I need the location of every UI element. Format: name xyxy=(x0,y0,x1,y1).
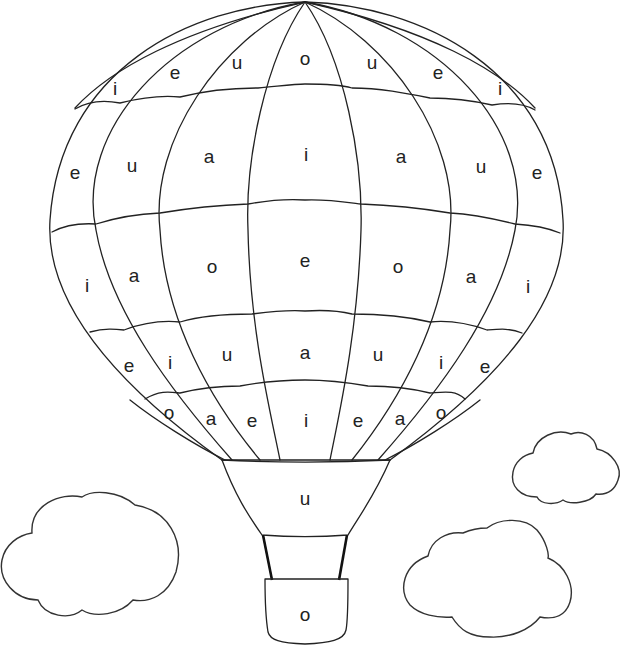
cloud-left xyxy=(1,492,178,615)
balloon-letter: i xyxy=(168,353,172,372)
balloon-drawing xyxy=(0,0,639,665)
balloon-letter: a xyxy=(204,147,215,166)
balloon-letter: a xyxy=(466,267,477,286)
balloon-letter: o xyxy=(207,257,218,276)
balloon-letter: u xyxy=(476,157,487,176)
balloon-letter: e xyxy=(247,411,258,430)
balloon-letter: u xyxy=(373,345,384,364)
balloon-letter: i xyxy=(498,79,502,98)
balloon-letter: e xyxy=(532,163,543,182)
band-line xyxy=(75,84,535,110)
band-line xyxy=(90,311,522,333)
gore-line xyxy=(305,2,361,460)
balloon-letter: i xyxy=(85,276,89,295)
balloon-letter: o xyxy=(164,403,175,422)
balloon-letter: a xyxy=(395,409,406,428)
balloon-letter: e xyxy=(70,163,81,182)
balloon-letter: a xyxy=(129,266,140,285)
balloon-letter: a xyxy=(206,409,217,428)
coloring-page: ieuoueieuaiaueiaoeoaieiuauieoaeieaouo xyxy=(0,0,639,665)
band-line xyxy=(145,380,465,399)
balloon-letter: e xyxy=(300,251,311,270)
skirt-letter: u xyxy=(300,489,311,508)
balloon-letter: a xyxy=(300,343,311,362)
balloon-letter: a xyxy=(396,147,407,166)
balloon-letter: o xyxy=(436,403,447,422)
balloon-letter: e xyxy=(170,63,181,82)
balloon-letter: i xyxy=(526,277,530,296)
rope-right xyxy=(339,535,347,580)
basket-letter: o xyxy=(300,605,311,624)
balloon-letter: i xyxy=(113,79,117,98)
balloon-letter: u xyxy=(232,53,243,72)
balloon-letter: o xyxy=(300,49,311,68)
balloon-letter: e xyxy=(433,63,444,82)
cloud-right-small xyxy=(512,432,619,503)
gore-line xyxy=(305,2,451,460)
gore-line xyxy=(248,2,305,460)
balloon-letter: u xyxy=(367,53,378,72)
gore-line xyxy=(75,2,305,108)
balloon-letter: o xyxy=(393,257,404,276)
gore-line xyxy=(93,2,305,460)
balloon-outline xyxy=(50,2,564,460)
balloon-letter: e xyxy=(353,411,364,430)
band-line xyxy=(52,200,560,233)
balloon-letter: i xyxy=(304,411,308,430)
balloon-letter: e xyxy=(124,356,135,375)
balloon-letter: i xyxy=(304,145,308,164)
rope-left xyxy=(263,535,272,580)
cloud-right-large xyxy=(404,520,572,637)
gore-line xyxy=(305,2,518,460)
balloon-letter: u xyxy=(222,345,233,364)
balloon-letter: i xyxy=(439,353,443,372)
balloon-letter: u xyxy=(127,156,138,175)
balloon-letter: e xyxy=(480,357,491,376)
